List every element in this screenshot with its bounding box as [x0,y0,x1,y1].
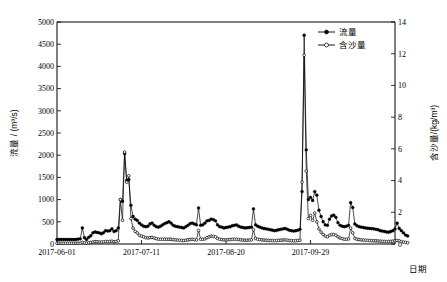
x-tick-label: 2017-07-11 [123,248,160,257]
data-point [309,214,312,217]
data-point [250,226,253,229]
series-path [57,55,408,243]
data-point [301,181,304,184]
data-point [127,174,130,177]
data-point [334,216,337,219]
flow-sediment-timeseries-chart: 0500100015002000250030003500400045005000… [0,0,447,282]
data-point [195,223,198,226]
data-point [396,222,399,225]
data-point [315,220,318,223]
series-flow [56,34,410,241]
data-point [311,199,314,202]
data-point [110,227,113,230]
data-point [406,235,409,238]
x-tick-label: 2017-06-01 [38,248,75,257]
series-path [57,35,408,239]
data-point [305,148,308,151]
data-point [250,239,253,242]
left-tick-label: 4000 [38,62,54,71]
data-point [136,232,139,235]
left-tick-label: 2000 [38,151,54,160]
data-point [123,151,126,154]
x-tick-label: 2017-08-20 [207,248,244,257]
series-sediment [56,54,409,245]
data-point [349,227,352,230]
right-tick-label: 6 [398,145,402,154]
x-tick-label: 2017-09-29 [292,248,329,257]
data-point [252,228,255,231]
right-axis-ticks: 02468101214 [391,18,406,249]
left-tick-label: 2500 [38,129,54,138]
data-point [320,231,323,234]
legend-label: 流量 [339,27,357,37]
data-point [313,190,316,193]
data-point [351,232,354,235]
data-point [326,224,329,227]
data-point [132,227,135,230]
data-point [303,54,306,57]
data-point [328,218,331,221]
data-point [119,198,122,201]
data-point [347,238,350,241]
legend-marker [325,43,329,47]
data-point [320,215,323,218]
data-point [130,217,133,220]
right-axis-title: 含沙量/(kg/m³) [429,105,439,161]
data-point [214,219,217,222]
right-tick-label: 10 [398,81,406,90]
data-point [309,196,312,199]
right-tick-label: 8 [398,113,402,122]
data-point [117,239,120,242]
legend-label: 含沙量 [339,40,366,50]
left-tick-label: 500 [42,218,54,227]
data-point [115,229,118,232]
left-tick-label: 3500 [38,84,54,93]
data-point [347,224,350,227]
data-point [197,207,200,210]
data-point [315,194,318,197]
right-tick-label: 12 [398,50,406,59]
data-point [89,234,92,237]
data-point [318,228,321,231]
data-point [136,219,139,222]
chart-legend: 流量含沙量 [318,27,366,50]
right-tick-label: 4 [398,176,402,185]
data-point [303,34,306,37]
data-point [125,181,128,184]
data-point [307,217,310,220]
data-point [81,227,84,230]
x-axis-title: 日期 [409,264,427,274]
data-point [195,239,198,242]
left-axis-title: 流量 / (m³/s) [9,109,19,156]
plot-frame [57,22,395,244]
right-tick-label: 2 [398,208,402,217]
data-point [298,228,301,231]
left-tick-label: 1000 [38,195,54,204]
data-point [318,209,321,212]
data-point [121,219,124,222]
data-point [351,206,354,209]
left-axis-ticks: 0500100015002000250030003500400045005000 [38,18,61,249]
data-point [252,207,255,210]
data-point [406,241,409,244]
data-point [337,221,340,224]
left-tick-label: 5000 [38,18,54,27]
left-tick-label: 1500 [38,173,54,182]
left-tick-label: 4500 [38,40,54,49]
data-point [311,219,314,222]
data-point [349,201,352,204]
data-point [197,229,200,232]
data-point [305,170,308,173]
series-layer [56,34,410,245]
data-point [394,227,397,230]
left-tick-label: 3000 [38,107,54,116]
right-tick-label: 14 [398,18,406,27]
data-point [79,237,82,240]
chart-container: 0500100015002000250030003500400045005000… [0,0,447,282]
data-point [313,212,316,215]
legend-marker [324,30,328,34]
data-point [299,239,302,242]
data-point [322,220,325,223]
